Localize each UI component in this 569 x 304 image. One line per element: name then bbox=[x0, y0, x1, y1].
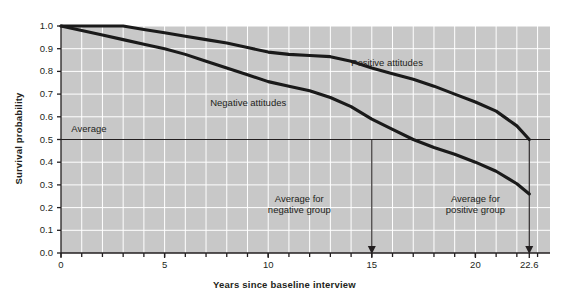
average-negative-group-line2: negative group bbox=[244, 204, 354, 216]
y-tick-label: 0.7 bbox=[19, 88, 53, 99]
y-tick-label: 0.6 bbox=[19, 111, 53, 122]
y-tick-label: 0.2 bbox=[19, 202, 53, 213]
y-tick-label: 0.3 bbox=[19, 179, 53, 190]
average-negative-group-note: Average for negative group bbox=[244, 193, 354, 216]
x-tick-label: 5 bbox=[145, 259, 185, 270]
x-tick-label: 15 bbox=[352, 259, 392, 270]
x-tick-label: 0 bbox=[41, 259, 81, 270]
y-tick-label: 1.0 bbox=[19, 20, 53, 31]
average-label: Average bbox=[71, 123, 106, 135]
average-positive-group-line2: positive group bbox=[420, 204, 530, 216]
x-tick-label: 10 bbox=[248, 259, 288, 270]
y-tick-label: 0.5 bbox=[19, 134, 53, 145]
y-tick-label: 0.0 bbox=[19, 247, 53, 258]
x-tick-label: 22.6 bbox=[509, 259, 549, 270]
y-tick-label: 0.8 bbox=[19, 65, 53, 76]
survival-probability-chart: Survival probability Years since baselin… bbox=[0, 0, 569, 304]
x-tick-label: 20 bbox=[455, 259, 495, 270]
y-tick-label: 0.1 bbox=[19, 224, 53, 235]
average-positive-group-note: Average for positive group bbox=[420, 193, 530, 216]
positive-attitudes-label: Positive attitudes bbox=[351, 57, 423, 69]
average-positive-group-line1: Average for bbox=[420, 193, 530, 205]
x-axis-title: Years since baseline interview bbox=[0, 279, 569, 290]
average-negative-group-line1: Average for bbox=[244, 193, 354, 205]
negative-attitudes-label: Negative attitudes bbox=[210, 97, 286, 109]
x-tick-marks bbox=[61, 253, 538, 258]
y-tick-label: 0.4 bbox=[19, 156, 53, 167]
y-tick-label: 0.9 bbox=[19, 43, 53, 54]
